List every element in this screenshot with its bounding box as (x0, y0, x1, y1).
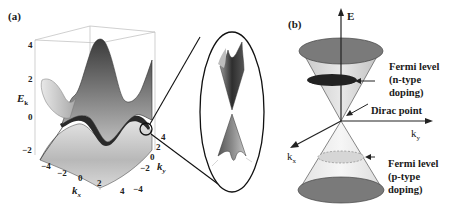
y-axis-subscript: k (24, 99, 28, 107)
ky-tick: −2 (140, 163, 150, 173)
fermi-level-n-disc (307, 74, 357, 86)
kx-tick: 2 (97, 178, 102, 188)
kx-tick: −2 (57, 168, 67, 178)
ky-axis-label: ky (411, 127, 420, 142)
annotation-line: (p-type (388, 170, 438, 183)
inset-ellipse (200, 32, 264, 192)
annotation-line: (n-type (389, 73, 439, 86)
dirac-point-annotation: Dirac point (371, 104, 422, 117)
y-tick: −2 (22, 145, 32, 155)
fermi-level-p-annotation: Fermi level (p-type doping) (388, 157, 438, 196)
panel-a-label: (a) (8, 10, 21, 22)
kx-tick: −4 (41, 161, 51, 171)
annotation-line: Fermi level (389, 60, 439, 73)
kx-tick: 4 (120, 186, 125, 196)
annotation-line: Fermi level (388, 157, 438, 170)
ky-tick: 4 (161, 132, 166, 142)
fermi-level-n-annotation: Fermi level (n-type doping) (389, 60, 439, 99)
y-axis-title: Ek (17, 92, 28, 107)
ky-axis-subscript: y (163, 167, 166, 175)
ky-label-subscript: y (417, 134, 421, 142)
y-tick: 0 (28, 112, 33, 122)
fermi-level-p-disc (318, 151, 364, 163)
ky-tick: 2 (156, 142, 161, 152)
kx-axis-subscript: x (78, 191, 82, 199)
annotation-line: doping) (389, 86, 439, 99)
ky-tick: −4 (133, 184, 143, 194)
y-tick: 2 (28, 74, 33, 84)
kx-tick: 0 (78, 173, 83, 183)
annotation-line: doping) (388, 183, 438, 196)
kx-axis-label: kx (287, 150, 296, 165)
e-axis-label: E (347, 10, 354, 22)
ky-axis-title: ky (157, 160, 166, 175)
surface-left-lobe (41, 79, 76, 118)
panel-b-label: (b) (288, 18, 301, 30)
lower-cone-cap (298, 177, 384, 203)
kx-axis-title: kx (72, 184, 81, 199)
y-tick: 4 (28, 40, 33, 50)
ky-tick: 0 (150, 152, 155, 162)
kx-label-subscript: x (293, 157, 297, 165)
